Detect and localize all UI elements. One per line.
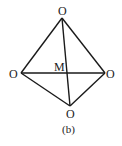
vertex-label-left: O — [9, 67, 18, 81]
edge-right-bottom — [70, 73, 105, 106]
edge-top-right — [62, 18, 105, 73]
vertex-label-bottom: O — [66, 107, 75, 121]
tetrahedral-diagram: O O O O M (b) — [0, 0, 122, 146]
center-label: M — [54, 60, 65, 74]
vertex-label-right: O — [106, 67, 115, 81]
figure-caption: (b) — [62, 123, 75, 136]
vertex-label-top: O — [58, 4, 67, 18]
edge-left-bottom — [21, 73, 70, 106]
